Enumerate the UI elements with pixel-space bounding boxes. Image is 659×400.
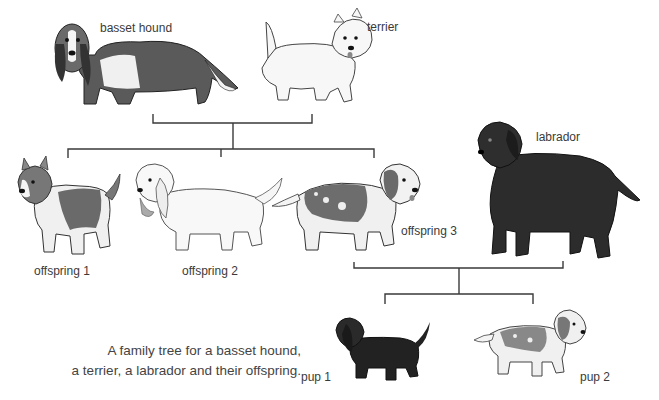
label-offspring-1: offspring 1 [34, 264, 90, 278]
label-terrier: terrier [367, 20, 398, 34]
pup-2-illustration [474, 310, 586, 376]
family-tree-canvas [0, 0, 659, 400]
label-basset-hound: basset hound [100, 21, 172, 35]
offspring-3-illustration [272, 164, 420, 250]
pup-1-illustration [336, 318, 430, 380]
label-offspring-3: offspring 3 [401, 224, 457, 238]
label-pup-2: pup 2 [580, 370, 610, 384]
figure-caption: A family tree for a basset hound, a terr… [72, 341, 301, 381]
terrier-illustration [262, 8, 372, 102]
caption-line-1: A family tree for a basset hound, [72, 341, 301, 361]
offspring-1-illustration [18, 156, 120, 254]
parent-bracket-bottom [354, 261, 563, 268]
pup-bar [385, 294, 533, 304]
label-offspring-2: offspring 2 [182, 264, 238, 278]
label-labrador: labrador [536, 130, 580, 144]
basset-hound-illustration [55, 24, 238, 104]
offspring-2-illustration [136, 164, 282, 250]
label-pup-1: pup 1 [301, 370, 331, 384]
caption-line-2: a terrier, a labrador and their offsprin… [72, 361, 301, 381]
parent-bracket-top [153, 114, 312, 123]
